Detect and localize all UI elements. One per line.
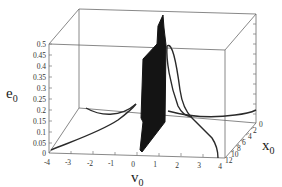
dark-surface: [140, 15, 166, 152]
x-tick: -4: [44, 158, 50, 167]
z-tick: 0.2: [37, 106, 47, 115]
y-axis: 0 2 4 6 8 10 12 x0: [225, 120, 275, 165]
z-tick: 0: [42, 149, 46, 158]
z-tick: 0.3: [37, 84, 47, 93]
x-tick: 3: [197, 161, 201, 170]
z-tick: 0.35: [33, 73, 46, 82]
z-tick: 0.45: [33, 51, 46, 60]
z-tick: 0.15: [33, 117, 46, 126]
y-tick: 12: [225, 156, 233, 165]
y-tick: 6: [242, 138, 246, 147]
back-right-ticks: [253, 24, 256, 114]
z-tick: 0.1: [37, 128, 47, 137]
chart-3d-plot: 0.5 0.45 0.4 0.35 0.3 0.25 0.2 0.15 0.1 …: [0, 0, 282, 187]
x-tick: 4: [218, 162, 222, 171]
x-axis-label: v0: [131, 169, 144, 187]
x-tick: -1: [108, 159, 114, 168]
z-tick: 0.25: [33, 95, 46, 104]
z-axis: 0.5 0.45 0.4 0.35 0.3 0.25 0.2 0.15 0.1 …: [6, 40, 52, 158]
x-tick: 0: [131, 160, 135, 169]
y-tick: 2: [253, 126, 257, 135]
x-tick: -3: [65, 158, 71, 167]
right-curve: [167, 45, 218, 158]
x-tick: 1: [153, 160, 157, 169]
z-tick: 0.05: [33, 139, 46, 148]
z-tick: 0.4: [37, 62, 47, 71]
y-tick: 4: [248, 132, 252, 141]
y-tick: 0: [259, 120, 263, 129]
z-axis-label: e0: [6, 85, 18, 104]
x-tick: -2: [87, 159, 93, 168]
z-tick: 0.5: [37, 40, 47, 49]
x-tick: 2: [175, 161, 179, 170]
y-axis-label: x0: [262, 137, 275, 156]
x-axis: -4 -3 -2 -1 0 1 2 3 4 v0: [44, 151, 222, 187]
